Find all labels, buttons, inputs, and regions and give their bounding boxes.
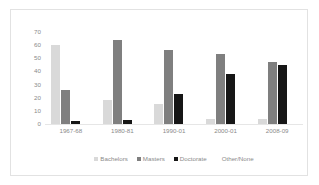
chart-frame: 706050403020100 1967-681980-811990-01200… — [10, 9, 308, 176]
x-axis-category-label: 2008-09 — [251, 128, 303, 134]
legend-item-other-none[interactable]: Other/None — [216, 156, 254, 162]
bar-bachelors[interactable] — [51, 45, 60, 124]
legend-label: Doctorate — [180, 156, 207, 162]
bar-group — [148, 32, 200, 124]
bar-group — [45, 32, 97, 124]
bar-doctorate[interactable] — [174, 94, 183, 124]
legend-swatch-doctorate-icon — [174, 157, 178, 161]
bar-doctorate[interactable] — [71, 121, 80, 124]
x-axis-category-label: 1990-01 — [148, 128, 200, 134]
bar-doctorate[interactable] — [278, 65, 287, 124]
legend-swatch-other-none-icon — [216, 157, 220, 161]
bar-groups — [45, 32, 303, 124]
y-axis-tick-label: 60 — [34, 42, 41, 48]
legend-label: Bachelors — [100, 156, 128, 162]
bar-bachelors[interactable] — [258, 119, 267, 124]
bar-doctorate[interactable] — [123, 120, 132, 124]
legend-swatch-bachelors-icon — [94, 157, 98, 161]
x-axis-category-labels: 1967-681980-811990-012000-012008-09 — [45, 128, 303, 134]
bar-masters[interactable] — [164, 50, 173, 124]
bar-bachelors[interactable] — [154, 104, 163, 124]
legend-item-bachelors[interactable]: Bachelors — [94, 156, 128, 162]
y-axis-tick-label: 40 — [34, 68, 41, 74]
x-axis-line — [45, 124, 303, 125]
y-axis-tick-label: 70 — [34, 29, 41, 35]
bar-bachelors[interactable] — [103, 100, 112, 124]
y-axis-tick-label: 10 — [34, 108, 41, 114]
legend-item-doctorate[interactable]: Doctorate — [174, 156, 207, 162]
bar-masters[interactable] — [216, 54, 225, 124]
bar-masters[interactable] — [268, 62, 277, 124]
y-axis-tick-label: 20 — [34, 95, 41, 101]
legend-swatch-masters-icon — [137, 157, 141, 161]
x-axis-category-label: 2000-01 — [200, 128, 252, 134]
x-axis-category-label: 1980-81 — [97, 128, 149, 134]
y-axis-tick-label: 30 — [34, 81, 41, 87]
legend-label: Masters — [143, 156, 165, 162]
y-axis-tick-label: 50 — [34, 55, 41, 61]
bar-masters[interactable] — [113, 40, 122, 124]
y-axis-tick-label: 0 — [38, 121, 41, 127]
bar-masters[interactable] — [61, 90, 70, 124]
bar-group — [251, 32, 303, 124]
legend-label: Other/None — [222, 156, 254, 162]
legend-item-masters[interactable]: Masters — [137, 156, 165, 162]
bar-group — [200, 32, 252, 124]
chart-legend: BachelorsMastersDoctorateOther/None — [45, 156, 303, 162]
x-axis-category-label: 1967-68 — [45, 128, 97, 134]
bar-group — [97, 32, 149, 124]
bar-bachelors[interactable] — [206, 119, 215, 124]
bar-doctorate[interactable] — [226, 74, 235, 124]
